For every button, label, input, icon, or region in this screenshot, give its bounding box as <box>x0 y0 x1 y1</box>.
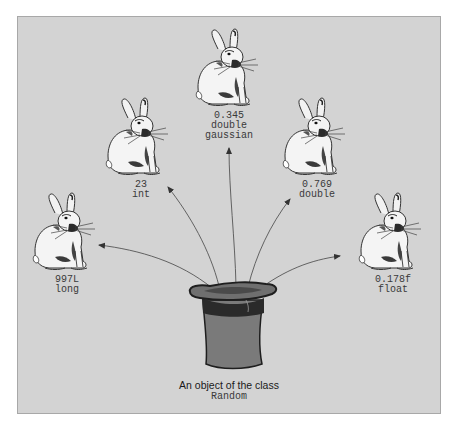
output-label-double: 0.769 double <box>272 180 362 200</box>
class-name: Random <box>149 391 309 403</box>
output-label-float: 0.178f float <box>348 275 438 295</box>
rabbit-icon <box>196 29 258 106</box>
diagram-canvas <box>0 0 459 429</box>
output-label-gaussian: 0.345 double gaussian <box>184 111 274 141</box>
source-caption: An object of the class Random <box>149 379 309 403</box>
rabbit-icon <box>106 98 168 175</box>
caption-line1: An object of the class <box>149 379 309 391</box>
type-text: float <box>348 285 438 295</box>
arrow-to-int <box>168 187 219 286</box>
arrow-to-gaussian <box>229 148 236 286</box>
type-text: long <box>22 285 112 295</box>
type-text: int <box>96 190 186 200</box>
rabbit-icon <box>283 98 345 175</box>
output-label-long: 997L long <box>22 275 112 295</box>
type-text-2: gaussian <box>184 131 274 141</box>
top-hat-icon <box>190 282 276 368</box>
arrow-to-long <box>99 245 212 288</box>
rabbit-icon <box>33 193 95 270</box>
rabbit-icon <box>359 193 421 270</box>
type-text: double <box>272 190 362 200</box>
output-label-int: 23 int <box>96 180 186 200</box>
